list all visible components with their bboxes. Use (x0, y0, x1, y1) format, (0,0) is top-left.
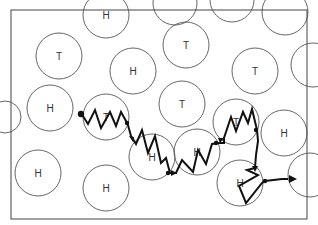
h-site: H (83, 165, 129, 211)
site (210, 0, 254, 22)
site-label: H (102, 183, 109, 194)
path-node (263, 179, 267, 183)
site-label: H (129, 66, 136, 77)
t-site: T (232, 48, 278, 94)
arrowhead-icon (289, 175, 297, 183)
hopping-path (81, 109, 288, 203)
t-site: T (83, 94, 129, 140)
site-label: H (46, 103, 53, 114)
site (262, 0, 308, 35)
site-label: T (252, 66, 258, 77)
site (288, 153, 318, 197)
site-label: H (148, 152, 155, 163)
t-site: T (159, 81, 205, 127)
site-label: T (179, 99, 185, 110)
site-circles: HTTHTHTTTHHHHHH (0, 0, 318, 211)
h-site: H (83, 0, 129, 38)
t-site: T (36, 33, 82, 79)
diagram-canvas: HTTHTHTTTHHHHHH (0, 0, 318, 225)
path-node (214, 141, 218, 145)
site (291, 43, 318, 87)
h-site: H (261, 110, 307, 156)
site-label: T (183, 40, 189, 51)
site-label: H (280, 128, 287, 139)
h-site: H (15, 150, 61, 196)
path-node (125, 121, 129, 125)
site-label: T (56, 51, 62, 62)
t-site: T (163, 22, 209, 68)
site-label: H (34, 168, 41, 179)
site-label: H (102, 10, 109, 21)
h-site: H (27, 85, 73, 131)
path-node (254, 128, 258, 132)
path-node (166, 171, 170, 175)
path-node (78, 111, 84, 117)
site (153, 0, 197, 25)
h-site: H (110, 48, 156, 94)
